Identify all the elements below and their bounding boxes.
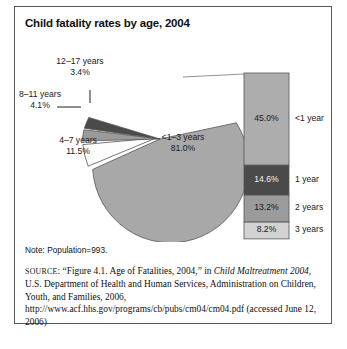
bar-label-2-years: 2 years	[295, 202, 323, 213]
pie-label-4-7-years: 4–7 years 11.5%	[41, 135, 115, 156]
source-prefix: SOURCE	[25, 267, 58, 276]
chart-note: Note: Population=993.	[25, 245, 107, 255]
source-text-part1: “Figure 4.1. Age of Fatalities, 2004,” i…	[63, 266, 214, 276]
source-italic-title: Child Maltreatment 2004	[214, 266, 309, 276]
bar-value-3-years: 8.2%	[244, 224, 289, 235]
bar-label-under-1-year: <1 year	[295, 113, 324, 124]
pie-label-under-3-years: <1–3 years 81.0%	[146, 132, 220, 153]
pie-label-12-17-years: 12–17 years 3.4%	[37, 56, 123, 77]
figure-frame: Child fatality rates by age, 2004	[14, 6, 332, 324]
chart-plot-area: 12–17 years 3.4% 8–11 years 4.1% 4–7 yea…	[15, 37, 331, 242]
bar-value-under-1-year: 45.0%	[244, 113, 289, 124]
pie-label-8-11-years: 8–11 years 4.1%	[9, 89, 71, 110]
chart-title: Child fatality rates by age, 2004	[25, 17, 190, 29]
source-citation: SOURCE: “Figure 4.1. Age of Fatalities, …	[25, 265, 321, 328]
breakout-stacked-bar	[244, 73, 289, 239]
bar-label-3-years: 3 years	[295, 224, 323, 235]
bar-label-1-year: 1 year	[295, 174, 319, 185]
bar-value-1-year: 14.6%	[244, 174, 289, 185]
bar-value-2-years: 13.2%	[244, 202, 289, 213]
breakout-connector-top	[183, 74, 244, 77]
